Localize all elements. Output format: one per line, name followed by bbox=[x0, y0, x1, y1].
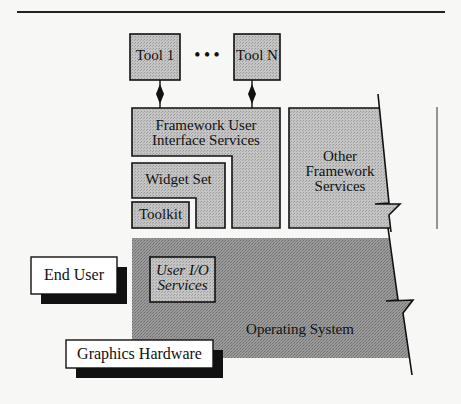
tool-n-label: Tool N bbox=[232, 48, 282, 64]
tool-1-label: Tool 1 bbox=[130, 48, 180, 64]
toolkit-label: Toolkit bbox=[132, 207, 189, 223]
user-io-label-line2: Services bbox=[150, 278, 215, 294]
tool-n-connector bbox=[248, 80, 256, 108]
graphics-hardware-label: Graphics Hardware bbox=[66, 346, 213, 363]
operating-system-label: Operating System bbox=[230, 322, 370, 338]
framework-ui-label-line2: Interface Services bbox=[132, 133, 280, 149]
diamond-arrow-icon bbox=[156, 84, 164, 104]
widget-set-label: Widget Set bbox=[132, 172, 225, 188]
tool-1-connector bbox=[156, 80, 164, 108]
other-framework-label-line3: Services bbox=[300, 179, 380, 195]
ellipsis: • • • bbox=[183, 47, 231, 64]
end-user-label: End User bbox=[31, 267, 117, 284]
diamond-arrow-icon bbox=[248, 84, 256, 104]
